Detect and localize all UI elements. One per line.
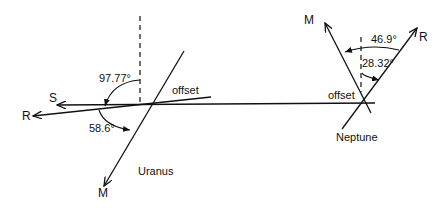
- label-uranus-rotation: R: [22, 110, 31, 122]
- label-uranus-offset: offset: [172, 85, 199, 96]
- label-neptune-offset: offset: [328, 90, 355, 101]
- angle-arc-46: [345, 47, 399, 52]
- uranus-geometry: [33, 16, 375, 186]
- uranus-rotation-axis: [33, 97, 211, 116]
- diagram-canvas: [0, 0, 448, 210]
- label-neptune-rotation: R: [419, 31, 428, 43]
- label-angle-28: 28.32°: [362, 58, 394, 69]
- spin-axis-line: [57, 103, 375, 105]
- angle-arc-28: [362, 73, 379, 80]
- label-neptune-magnetic: M: [304, 14, 314, 26]
- label-angle-46: 46.9°: [371, 34, 397, 45]
- label-uranus-spin: S: [49, 92, 57, 104]
- label-uranus-name: Uranus: [138, 166, 173, 177]
- label-angle-58: 58.6°: [89, 123, 115, 134]
- label-uranus-magnetic: M: [98, 187, 108, 199]
- label-angle-97: 97.77°: [99, 73, 131, 84]
- label-neptune-name: Neptune: [336, 132, 378, 143]
